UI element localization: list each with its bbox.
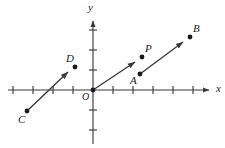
point-dot-b: [188, 35, 193, 40]
point-label-c: C: [18, 114, 25, 125]
coordinate-plane-canvas: [0, 0, 225, 148]
vector-diagram-figure: x y O C D P A B: [0, 0, 225, 148]
point-label-b: B: [193, 23, 200, 34]
point-label-d: D: [66, 53, 74, 64]
vector-op-line: [93, 62, 135, 90]
point-dot-c: [25, 109, 30, 114]
point-label-a: A: [130, 75, 137, 86]
point-dot-origin: [91, 88, 96, 93]
y-axis-label: y: [88, 2, 93, 13]
point-dot-a: [138, 72, 143, 77]
x-axis: [8, 86, 209, 94]
point-dots: [25, 35, 193, 114]
y-axis: [89, 21, 97, 144]
origin-label: O: [82, 92, 89, 102]
x-axis-label: x: [216, 83, 221, 94]
point-label-p: P: [145, 43, 152, 54]
point-dot-p: [140, 55, 145, 60]
point-dot-d: [73, 65, 78, 70]
vector-op: [93, 62, 135, 90]
